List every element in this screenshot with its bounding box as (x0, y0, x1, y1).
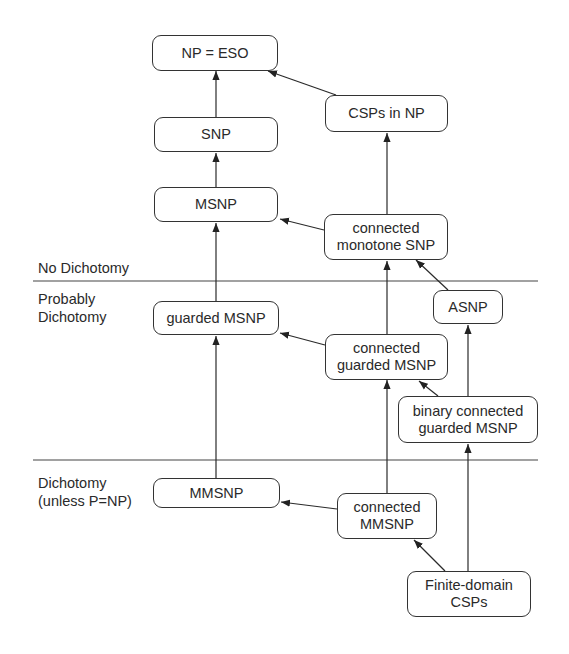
node-connected-guarded-msnp: connected guarded MSNP (325, 334, 448, 380)
zone-label-line: Probably (38, 290, 107, 308)
zone-label-no-dichotomy: No Dichotomy (38, 259, 129, 277)
node-finite-domain-csps: Finite-domain CSPs (407, 571, 531, 617)
zone-label-line: Dichotomy (38, 308, 107, 326)
edge-cmmsnp-mmsnp (281, 502, 337, 509)
zone-label-line: No Dichotomy (38, 260, 129, 276)
node-label: CSPs in NP (348, 105, 425, 122)
edge-fdcsps-cmmsnp (414, 540, 445, 571)
edges-layer (0, 0, 569, 654)
complexity-class-diagram: No Dichotomy Probably Dichotomy Dichotom… (0, 0, 569, 654)
node-label: connected (353, 220, 420, 237)
node-snp: SNP (154, 117, 278, 152)
edge-cgmsnp-gmsnp (280, 333, 325, 345)
edge-asnp-cmsnp (416, 260, 448, 290)
node-label: MMSNP (190, 485, 244, 502)
node-label: ASNP (448, 299, 488, 316)
edge-cmsnp-msnp (280, 219, 324, 230)
node-label: guarded MSNP (418, 420, 517, 437)
node-guarded-msnp: guarded MSNP (153, 301, 279, 335)
node-label: Finite-domain (425, 577, 513, 594)
node-label: monotone SNP (337, 237, 435, 254)
node-label: guarded MSNP (166, 310, 265, 327)
zone-label-probably-dichotomy: Probably Dichotomy (38, 290, 107, 326)
node-label: SNP (201, 126, 231, 143)
zone-label-dichotomy: Dichotomy (unless P=NP) (38, 474, 132, 510)
node-label: MSNP (195, 196, 237, 213)
node-label: connected (353, 340, 420, 357)
zone-label-line: Dichotomy (38, 474, 132, 492)
node-label: MMSNP (360, 516, 414, 533)
node-asnp: ASNP (433, 290, 503, 324)
node-label: CSPs (450, 594, 487, 611)
node-csps-in-np: CSPs in NP (325, 95, 448, 132)
node-label: binary connected (413, 403, 523, 420)
node-label: NP = ESO (181, 45, 248, 62)
node-np-eso: NP = ESO (152, 35, 278, 71)
node-label: connected (354, 499, 421, 516)
node-binary-connected-guarded-msnp: binary connected guarded MSNP (398, 396, 538, 443)
node-msnp: MSNP (154, 187, 278, 222)
node-mmsnp: MMSNP (153, 478, 280, 508)
node-connected-monotone-snp: connected monotone SNP (324, 214, 448, 260)
edge-csps-in-np-np-eso (268, 71, 336, 95)
zone-label-line: (unless P=NP) (38, 492, 132, 510)
edge-bcgmsnp-cgmsnp (419, 381, 438, 396)
node-label: guarded MSNP (337, 357, 436, 374)
node-connected-mmsnp: connected MMSNP (337, 493, 437, 539)
